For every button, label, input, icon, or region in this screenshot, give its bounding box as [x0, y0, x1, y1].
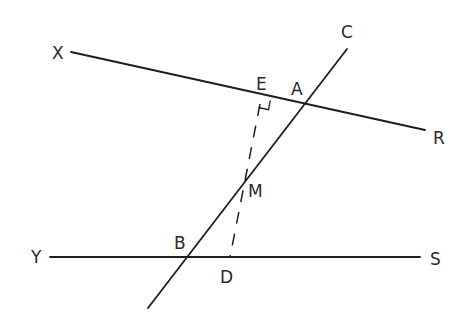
label-x: X [52, 43, 64, 63]
line-xr [71, 52, 425, 130]
label-s: S [430, 249, 441, 269]
label-m: M [248, 181, 263, 201]
label-y: Y [30, 247, 42, 267]
label-e: E [256, 74, 267, 94]
label-a: A [291, 79, 303, 99]
geometry-diagram: X E A C R M B D Y S [0, 0, 471, 321]
transversal-line [148, 49, 347, 308]
label-b: B [174, 233, 186, 253]
label-d: D [220, 267, 233, 287]
label-c: C [341, 22, 353, 42]
label-r: R [433, 128, 445, 148]
